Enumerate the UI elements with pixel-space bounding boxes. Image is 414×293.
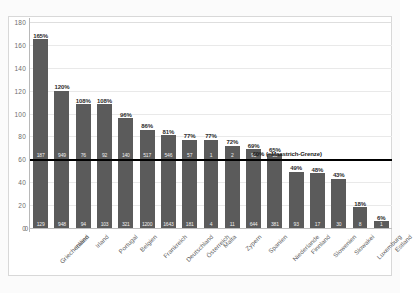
bar-value-lower: 17 — [315, 221, 320, 227]
bar-value-lower: 948 — [58, 221, 66, 227]
maastricht-reference-label: 60% (=Maastrich-Grenze) — [253, 151, 322, 157]
bar-slot: 77%14 — [204, 140, 219, 228]
bar-value-lower: 30 — [336, 221, 341, 227]
x-axis-category-label: Spanien — [266, 233, 288, 255]
bar-percent-label: 49% — [290, 165, 302, 171]
bar-slot: 48%17 — [310, 173, 325, 228]
bar[interactable]: 18%8 — [353, 207, 368, 228]
y-axis-tick-label: 80 — [0, 133, 26, 140]
bar-value-upper: 2 — [231, 152, 234, 158]
y-axis-zero-label: 0 — [4, 225, 28, 232]
bar[interactable]: 65%10381 — [267, 154, 282, 228]
bar-percent-label: 18% — [354, 201, 366, 207]
y-axis-tick-label: 60 — [0, 156, 26, 163]
bar[interactable]: 43%30 — [331, 179, 346, 228]
bar-percent-label: 43% — [333, 172, 345, 178]
bar[interactable]: 96%140321 — [118, 118, 133, 228]
x-axis-category-label: Belgien — [138, 233, 158, 253]
bar-value-lower: 644 — [250, 221, 258, 227]
bar-value-lower: 181 — [186, 221, 194, 227]
bar[interactable]: 86%5171200 — [140, 130, 155, 228]
bar-slot: 65%10381 — [267, 154, 282, 228]
x-axis-category-labels: GriechenlandItalienIrlandPortugalBelgien… — [30, 230, 392, 290]
x-axis-category-label: Portugal — [117, 233, 139, 255]
bar[interactable]: 77%14 — [204, 140, 219, 228]
bar-value-lower: 1643 — [163, 221, 173, 227]
bar-value-upper: 57 — [187, 152, 192, 158]
bar[interactable]: 81%5461643 — [161, 135, 176, 228]
bar-slot: 6%1 — [374, 221, 389, 228]
bar[interactable]: 108%92103 — [97, 104, 112, 228]
y-axis-tick-label: 40 — [0, 179, 26, 186]
bar-slot: 165%187129 — [33, 39, 48, 228]
bar-value-upper: 140 — [122, 152, 130, 158]
bar-value-upper: 546 — [165, 152, 173, 158]
bar-slot: 49%93 — [289, 172, 304, 228]
bar-value-lower: 381 — [271, 221, 279, 227]
bar-value-upper: 92 — [102, 152, 107, 158]
bar-percent-label: 6% — [377, 215, 385, 221]
y-axis-tick-label: 140 — [0, 64, 26, 71]
bar-value-lower: 129 — [37, 221, 45, 227]
bar-percent-label: 96% — [120, 112, 132, 118]
bar-slot: 18%8 — [353, 207, 368, 228]
bar-value-upper: 187 — [37, 152, 45, 158]
bar-slot: 77%57181 — [182, 140, 197, 228]
maastricht-reference-line — [30, 159, 392, 161]
bar[interactable]: 72%211 — [225, 146, 240, 228]
bar-value-upper: 949 — [58, 152, 66, 158]
bar-percent-label: 72% — [226, 139, 238, 145]
x-axis-category-label: Italien — [73, 233, 90, 250]
bar[interactable]: 48%17 — [310, 173, 325, 228]
y-axis-tick-label: 180 — [0, 19, 26, 26]
bar-slot: 86%5171200 — [140, 130, 155, 228]
bar-percent-label: 48% — [312, 167, 324, 173]
gridline — [30, 22, 392, 23]
bar-percent-label: 81% — [163, 129, 175, 135]
y-axis-tick-label: 20 — [0, 202, 26, 209]
bar[interactable]: 6%1 — [374, 221, 389, 228]
x-axis-category-label: Irland — [94, 233, 110, 249]
bar-value-upper: 76 — [81, 152, 86, 158]
bar-value-lower: 11 — [230, 221, 235, 227]
bar-percent-label: 77% — [205, 133, 217, 139]
y-axis-tick-label: 100 — [0, 110, 26, 117]
bar[interactable]: 49%93 — [289, 172, 304, 228]
gridline — [30, 45, 392, 46]
bar-value-lower: 103 — [101, 221, 109, 227]
bar-value-lower: 93 — [294, 221, 299, 227]
bar-slot: 96%140321 — [118, 118, 133, 228]
bar-percent-label: 108% — [97, 98, 112, 104]
bar-value-upper: 1 — [210, 152, 213, 158]
y-axis-tick-label: 160 — [0, 41, 26, 48]
x-axis-category-label: Zypern — [244, 233, 263, 252]
x-axis-category-label: Slowenien — [332, 233, 358, 259]
bar-slot: 43%30 — [331, 179, 346, 228]
bar-value-lower: 1200 — [142, 221, 152, 227]
x-axis-category-label: Frankreich — [162, 233, 188, 259]
bar-slot: 72%211 — [225, 146, 240, 228]
bar-value-upper: 517 — [143, 152, 151, 158]
bar-percent-label: 69% — [248, 143, 260, 149]
bar-percent-label: 77% — [184, 133, 196, 139]
x-axis-line — [29, 228, 392, 229]
y-axis-tick-label: 120 — [0, 87, 26, 94]
bar-value-lower: 321 — [122, 221, 130, 227]
bar-value-lower: 94 — [81, 221, 86, 227]
plot-area: 020406080100120140160180 165%187129120%9… — [30, 22, 392, 228]
bar-value-lower: 8 — [359, 221, 362, 227]
gridline — [30, 68, 392, 69]
bar[interactable]: 77%57181 — [182, 140, 197, 228]
bar-value-lower: 1 — [380, 221, 383, 227]
gridline — [30, 91, 392, 92]
bar-slot: 81%5461643 — [161, 135, 176, 228]
bar-value-lower: 4 — [210, 221, 213, 227]
bar-percent-label: 165% — [33, 33, 48, 39]
bar[interactable]: 165%187129 — [33, 39, 48, 228]
bar[interactable]: 108%7694 — [76, 104, 91, 228]
bar-slot: 108%7694 — [76, 104, 91, 228]
bar-percent-label: 120% — [54, 84, 69, 90]
bar-percent-label: 108% — [76, 98, 91, 104]
bar-slot: 108%92103 — [97, 104, 112, 228]
